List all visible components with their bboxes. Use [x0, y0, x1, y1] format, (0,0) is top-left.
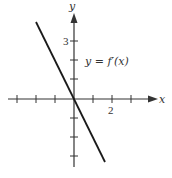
- y-axis-arrow-icon: [71, 13, 78, 23]
- curve-label: y = f′(x): [84, 55, 129, 68]
- y-axis-label: y: [68, 0, 76, 13]
- y-tick-label-3: 3: [63, 35, 69, 47]
- x-axis-label: x: [159, 93, 166, 106]
- x-tick-label-2: 2: [108, 104, 114, 116]
- x-axis-arrow-icon: [148, 96, 158, 103]
- derivative-line: [36, 22, 105, 162]
- chart: y x 3 2 y = f′(x): [0, 0, 172, 178]
